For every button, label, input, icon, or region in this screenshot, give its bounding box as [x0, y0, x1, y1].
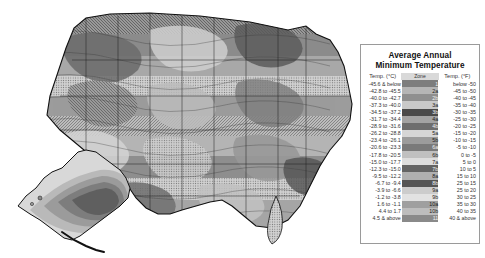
legend-cell-celsius: -9.5 to -12.2	[364, 172, 401, 179]
legend-cell-celsius: -40.0 to -42.7	[364, 94, 401, 101]
legend-cell-celsius: -3.9 to -6.6	[364, 187, 401, 194]
legend-cell-celsius: -28.9 to -31.6	[364, 123, 401, 130]
legend-cell-celsius: 4.5 & above	[364, 215, 401, 222]
page-root: Average Annual Minimum Temperature Temp.…	[0, 0, 485, 258]
legend-cell-fahrenheit: 30 to 25	[439, 194, 476, 201]
legend-row: 1.6 to -1.110a35 to 30	[364, 201, 476, 208]
legend-table: Temp. (°C) Zone Temp. (°F) -45.6 & below…	[364, 73, 476, 222]
legend-row: -23.4 to -26.15b-10 to -15	[364, 137, 476, 144]
legend-row: -40.0 to -42.72b-40 to -45	[364, 94, 476, 101]
legend-cell-fahrenheit: 0 to -5	[439, 151, 476, 158]
legend-cell-celsius: 1.6 to -1.1	[364, 201, 401, 208]
legend-cell-fahrenheit: 5 to 0	[439, 158, 476, 165]
legend-body: -45.6 & below1below -50-42.8 to -45.52a-…	[364, 80, 476, 222]
legend-row: -45.6 & below1below -50	[364, 80, 476, 87]
legend-cell-fahrenheit: 15 to 10	[439, 172, 476, 179]
legend-cell-celsius: -45.6 & below	[364, 80, 401, 87]
legend-zone-swatch: 8b	[401, 180, 438, 187]
legend-zone-swatch: 5a	[401, 130, 438, 137]
legend-zone-swatch: 4b	[401, 123, 438, 130]
legend-row: 4.4 to 1.710b40 to 35	[364, 208, 476, 215]
legend-cell-fahrenheit: -15 to -20	[439, 130, 476, 137]
legend-zone-swatch: 7a	[401, 158, 438, 165]
legend-zone-swatch: 7b	[401, 165, 438, 172]
legend-cell-fahrenheit: 35 to 30	[439, 201, 476, 208]
legend-row: -28.9 to -31.64b-20 to -25	[364, 123, 476, 130]
legend-cell-celsius: -20.6 to -23.3	[364, 144, 401, 151]
legend-zone-swatch: 3a	[401, 101, 438, 108]
legend-cell-fahrenheit: 10 to 5	[439, 165, 476, 172]
hardiness-zone-map[interactable]	[0, 0, 360, 258]
legend-zone-swatch: 9b	[401, 194, 438, 201]
legend-row: -3.9 to -6.69a25 to 20	[364, 187, 476, 194]
legend-header-fahrenheit: Temp. (°F)	[439, 73, 476, 80]
legend-cell-celsius: -15.0 to -17.7	[364, 158, 401, 165]
legend-row: -34.5 to -37.23b-30 to -35	[364, 109, 476, 116]
legend-header-row: Temp. (°C) Zone Temp. (°F)	[364, 73, 476, 80]
legend-row: 4.5 & above1140 & above	[364, 215, 476, 222]
legend-row: -42.8 to -45.52a-45 to -50	[364, 87, 476, 94]
legend-cell-fahrenheit: -30 to -35	[439, 109, 476, 116]
legend-row: -31.7 to -34.44a-25 to -30	[364, 116, 476, 123]
legend-cell-fahrenheit: 25 to 20	[439, 187, 476, 194]
legend-row: -15.0 to -17.77a5 to 0	[364, 158, 476, 165]
legend-row: -1.2 to -3.89b30 to 25	[364, 194, 476, 201]
legend-cell-fahrenheit: 25 to 15	[439, 180, 476, 187]
legend-zone-swatch: 8a	[401, 172, 438, 179]
legend-row: -9.5 to -12.28a15 to 10	[364, 172, 476, 179]
legend-panel: Average Annual Minimum Temperature Temp.…	[360, 44, 480, 244]
legend-zone-swatch: 10b	[401, 208, 438, 215]
legend-row: -20.6 to -23.36a-5 to -10	[364, 144, 476, 151]
legend-row: -26.2 to -28.85a-15 to -20	[364, 130, 476, 137]
legend-cell-celsius: -12.3 to -15.0	[364, 165, 401, 172]
legend-zone-swatch: 10a	[401, 201, 438, 208]
legend-zone-swatch: 1	[401, 80, 438, 87]
legend-header-celsius: Temp. (°C)	[364, 73, 401, 80]
legend-zone-swatch: 4a	[401, 116, 438, 123]
legend-zone-swatch: 11	[401, 215, 438, 222]
legend-zone-swatch: 6a	[401, 144, 438, 151]
legend-cell-fahrenheit: -5 to -10	[439, 144, 476, 151]
legend-cell-celsius: 4.4 to 1.7	[364, 208, 401, 215]
legend-zone-swatch: 2b	[401, 94, 438, 101]
legend-cell-celsius: -31.7 to -34.4	[364, 116, 401, 123]
legend-zone-swatch: 9a	[401, 187, 438, 194]
legend-cell-fahrenheit: -35 to -40	[439, 101, 476, 108]
legend-cell-celsius: -17.8 to -20.5	[364, 151, 401, 158]
legend-cell-celsius: -37.3 to -40.0	[364, 101, 401, 108]
legend-title-line2: Minimum Temperature	[364, 61, 476, 71]
legend-zone-swatch: 3b	[401, 109, 438, 116]
legend-row: -6.7 to -9.48b25 to 15	[364, 180, 476, 187]
legend-cell-fahrenheit: 40 & above	[439, 215, 476, 222]
legend-zone-swatch: 5b	[401, 137, 438, 144]
legend-cell-fahrenheit: below -50	[439, 80, 476, 87]
legend-cell-fahrenheit: -40 to -45	[439, 94, 476, 101]
legend-cell-celsius: -6.7 to -9.4	[364, 180, 401, 187]
legend-title: Average Annual Minimum Temperature	[364, 51, 476, 70]
legend-cell-fahrenheit: -10 to -15	[439, 137, 476, 144]
legend-row: -12.3 to -15.07b10 to 5	[364, 165, 476, 172]
map-graphic	[0, 0, 360, 258]
legend-cell-fahrenheit: -20 to -25	[439, 123, 476, 130]
legend-title-line1: Average Annual	[364, 51, 476, 61]
legend-cell-celsius: -1.2 to -3.8	[364, 194, 401, 201]
legend-cell-fahrenheit: 40 to 35	[439, 208, 476, 215]
legend-header-zone: Zone	[401, 73, 438, 80]
legend-zone-swatch: 2a	[401, 87, 438, 94]
legend-cell-fahrenheit: -45 to -50	[439, 87, 476, 94]
legend-row: -37.3 to -40.03a-35 to -40	[364, 101, 476, 108]
legend-cell-fahrenheit: -25 to -30	[439, 116, 476, 123]
legend-cell-celsius: -26.2 to -28.8	[364, 130, 401, 137]
legend-cell-celsius: -34.5 to -37.2	[364, 109, 401, 116]
legend-zone-swatch: 6b	[401, 151, 438, 158]
legend-row: -17.8 to -20.56b0 to -5	[364, 151, 476, 158]
legend-cell-celsius: -23.4 to -26.1	[364, 137, 401, 144]
legend-cell-celsius: -42.8 to -45.5	[364, 87, 401, 94]
